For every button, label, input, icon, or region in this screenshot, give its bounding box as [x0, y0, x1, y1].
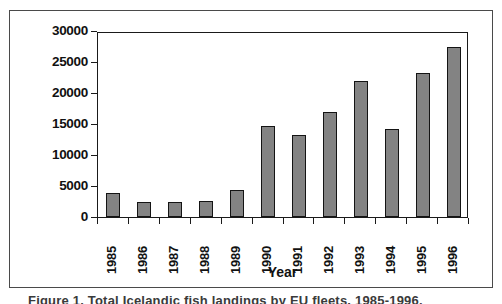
- bar-1988: [199, 201, 213, 217]
- bar-1994: [385, 129, 399, 217]
- x-axis-tick: [313, 218, 314, 224]
- bar-1991: [292, 135, 306, 217]
- bar-chart: 050001000015000200002500030000 Landings …: [0, 0, 502, 304]
- x-axis-tick: [159, 218, 160, 224]
- bar-1989: [230, 190, 244, 217]
- bar-1986: [137, 202, 151, 218]
- y-axis-title: Landings (t): [0, 92, 94, 173]
- bars-layer: [98, 33, 467, 217]
- bar-1993: [354, 81, 368, 217]
- y-axis-tick-label: 0: [0, 209, 88, 224]
- x-axis-tick: [468, 218, 469, 224]
- y-axis-tick-label: 25000: [0, 54, 88, 69]
- x-axis-tick: [283, 218, 284, 224]
- x-axis-tick: [406, 218, 407, 224]
- x-axis-tick: [344, 218, 345, 224]
- bar-1990: [261, 126, 275, 217]
- x-axis-tick: [221, 218, 222, 224]
- x-axis-tick: [190, 218, 191, 224]
- x-axis-tick: [97, 218, 98, 224]
- bar-1985: [106, 193, 120, 217]
- x-axis-tick: [128, 218, 129, 224]
- y-axis-tick-label: 30000: [0, 23, 88, 38]
- bar-1996: [447, 47, 461, 217]
- bar-1992: [323, 112, 337, 217]
- plot-area: [97, 32, 468, 218]
- x-axis-title: Year: [97, 264, 468, 280]
- figure-caption: Figure 1. Total Icelandic fish landings …: [28, 293, 488, 304]
- y-axis-tick-label: 5000: [0, 178, 88, 193]
- bar-1987: [168, 202, 182, 218]
- x-axis-tick: [437, 218, 438, 224]
- x-axis-tick: [252, 218, 253, 224]
- bar-1995: [416, 73, 430, 217]
- x-axis-tick: [375, 218, 376, 224]
